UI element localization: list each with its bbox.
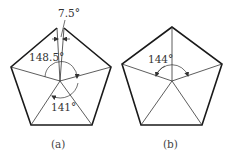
spoke-b-bottom-left — [141, 81, 172, 125]
label-148-5-angle: 148.5° — [29, 51, 64, 63]
spoke-a-right — [60, 67, 111, 81]
angle-arc-141 — [52, 83, 78, 98]
label-144-angle: 144° — [148, 53, 173, 65]
spoke-a-left — [11, 67, 60, 81]
figure-a: 7.5° 148.5° 141° (a) — [11, 7, 111, 150]
angle-arc-144-start — [156, 66, 165, 76]
spoke-b-bottom-right — [172, 81, 202, 125]
caption-b: (b) — [163, 138, 178, 150]
label-gap-angle: 7.5° — [58, 7, 80, 19]
diagram-canvas: 7.5° 148.5° 141° (a) 144° (b) — [0, 0, 233, 160]
label-141-angle: 141° — [51, 101, 76, 113]
figure-b: 144° (b) — [122, 27, 222, 150]
caption-a: (a) — [51, 138, 65, 150]
